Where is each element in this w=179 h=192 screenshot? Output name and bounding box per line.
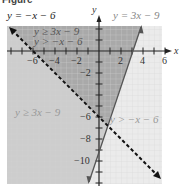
right-region-label: y > −x − 6 (109, 113, 159, 125)
x-tick-label: 2 (118, 55, 123, 66)
y-axis-label: y (91, 4, 97, 15)
y-tick-label: −6 (80, 111, 91, 122)
left-region-label: y ≥ 3x − 9 (14, 106, 61, 118)
y-tick-label: −2 (80, 67, 91, 78)
x-axis-label: x (173, 45, 179, 56)
x-tick-label: −4 (49, 55, 60, 66)
x-tick-label: 4 (140, 55, 145, 66)
x-tick-label: −2 (71, 55, 82, 66)
line-label-neg-x-minus-6: y = −x − 6 (6, 9, 56, 21)
x-tick-label: −6 (27, 55, 38, 66)
figure-heading: Figure (2, 0, 33, 5)
inequality-graph: Figure (0, 0, 179, 192)
y-tick-label: −10 (74, 155, 90, 166)
x-tick-label: 6 (162, 55, 167, 66)
line-label-3x-minus-9: y = 3x − 9 (112, 9, 160, 21)
overlap-label-b: y > −x − 6 (33, 35, 83, 47)
y-tick-label: −8 (80, 133, 91, 144)
